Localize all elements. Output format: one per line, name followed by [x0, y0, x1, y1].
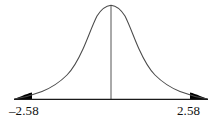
normal-distribution-figure: –2.58 2.58 — [0, 0, 222, 127]
left-critical-value-label: –2.58 — [9, 104, 39, 117]
right-critical-value-label: 2.58 — [177, 104, 200, 117]
